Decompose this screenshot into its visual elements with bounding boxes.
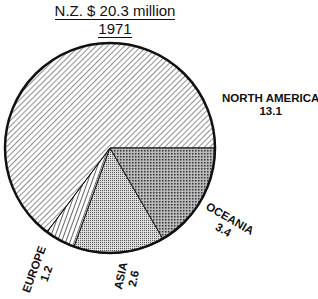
label-north-america: NORTH AMERICA13.1 — [222, 92, 318, 118]
